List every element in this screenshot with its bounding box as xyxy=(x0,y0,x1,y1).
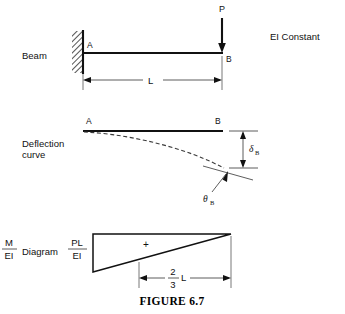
dimension-arrow-icon xyxy=(83,77,91,83)
moment-panel-label-fraction: M EI xyxy=(2,237,17,261)
moment-label-numerator: M xyxy=(5,237,13,248)
beam-point-b-label: B xyxy=(226,54,232,64)
moment-panel-label-word: Diagram xyxy=(22,246,58,257)
deflected-shape-curve xyxy=(84,132,224,168)
leader-arrow-icon xyxy=(212,171,228,192)
deflection-delta-subscript: B xyxy=(255,149,260,156)
centroid-denominator: 3 xyxy=(170,279,175,290)
deflection-panel: Deflection curve A B θ B xyxy=(22,116,260,206)
centroid-numerator: 2 xyxy=(170,266,175,277)
slope-theta-symbol: θ xyxy=(203,194,208,204)
dimension-arrow-icon xyxy=(240,160,246,168)
slope-theta-subscript: B xyxy=(210,199,215,206)
beam-panel-label: Beam xyxy=(22,50,47,61)
deflection-panel-label-line2: curve xyxy=(22,149,45,160)
dimension-arrow-icon xyxy=(214,77,222,83)
deflection-panel-label-line1: Deflection xyxy=(22,138,64,149)
dimension-arrow-icon xyxy=(240,131,246,139)
peak-numerator: PL xyxy=(71,237,83,248)
peak-denominator: EI xyxy=(73,250,82,261)
deflection-point-a-label: A xyxy=(86,116,92,126)
moment-label-denominator: EI xyxy=(5,250,14,261)
dimension-arrow-icon xyxy=(223,275,231,281)
ei-constant-note: EI Constant xyxy=(270,31,320,42)
beam-point-a-label: A xyxy=(87,40,93,50)
deflection-delta-symbol: δ xyxy=(249,144,254,154)
fixed-support-hatching-icon xyxy=(72,31,82,73)
beam-panel: Beam A B P xyxy=(22,4,320,90)
centroid-distance-fraction: 2 3 xyxy=(168,266,179,290)
load-p-label: P xyxy=(219,4,225,14)
positive-sign-label: + xyxy=(143,239,149,250)
figure-container: Beam A B P xyxy=(0,0,345,314)
deflection-point-b-label: B xyxy=(215,116,221,126)
dimension-arrow-icon xyxy=(139,275,147,281)
moment-diagram-triangle xyxy=(93,234,231,272)
centroid-unit-label: L xyxy=(181,272,186,283)
downward-load-arrow-icon xyxy=(218,18,226,53)
figure-caption: FIGURE 6.7 xyxy=(140,295,205,307)
peak-ordinate-fraction: PL EI xyxy=(68,237,87,261)
delta-dimension-line xyxy=(240,131,246,168)
moment-panel: M EI Diagram PL EI + xyxy=(2,234,231,290)
span-length-label: L xyxy=(148,75,153,86)
figure-drawing: Beam A B P xyxy=(0,0,345,314)
